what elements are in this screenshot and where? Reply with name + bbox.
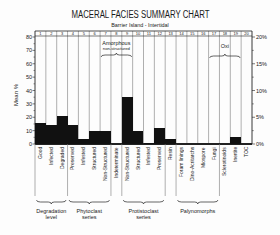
column-number-6: 6 bbox=[89, 31, 100, 36]
y2-tick-label-20: 20% bbox=[256, 34, 267, 40]
bar-11-infested bbox=[144, 143, 155, 144]
column-number-16: 16 bbox=[198, 31, 209, 36]
bar-10-structured bbox=[133, 131, 144, 144]
group-brace-degradation-level bbox=[37, 200, 67, 204]
category-label-structured: Structured bbox=[91, 147, 98, 191]
bar-4-preserved bbox=[68, 125, 79, 144]
group-brace-phytoclast-series bbox=[69, 200, 109, 204]
bar-12-preserved bbox=[154, 128, 165, 144]
column-number-10: 10 bbox=[133, 31, 144, 36]
column-number-20: 20 bbox=[241, 31, 252, 36]
bar-5-infested bbox=[78, 139, 89, 144]
column-number-12: 12 bbox=[154, 31, 165, 36]
category-label-preserved: Preserved bbox=[156, 147, 163, 191]
y2-tick-label-10: 10% bbox=[256, 88, 267, 94]
column-number-5: 5 bbox=[78, 31, 89, 36]
category-label-sclerotinoids: Sclerotinoids bbox=[221, 147, 228, 191]
category-label-degraded: Degraded bbox=[59, 147, 66, 191]
category-label-indeterminate: Indeterminate bbox=[113, 147, 120, 191]
y-tick-label-20: 20 bbox=[18, 114, 32, 120]
column-number-7: 7 bbox=[100, 31, 111, 36]
y-tick-label-80: 80 bbox=[18, 34, 32, 40]
category-label-foram-linings: Foram linings bbox=[178, 147, 185, 191]
y-tick-label-70: 70 bbox=[18, 47, 32, 53]
annotation-oxi: Oxi bbox=[210, 43, 241, 49]
column-number-2: 2 bbox=[46, 31, 57, 36]
y2-tick-label-5: 5% bbox=[256, 114, 264, 120]
group-label-line: Palynomorphs bbox=[173, 208, 223, 214]
category-label-structured: Structured bbox=[135, 147, 142, 191]
annotation-label: Oxi bbox=[210, 43, 241, 49]
category-label-non-structured: Non-Structured bbox=[124, 147, 131, 191]
y-tick-label-50: 50 bbox=[18, 74, 32, 80]
bar-1-good bbox=[35, 123, 46, 144]
category-label-preserved: Preserved bbox=[69, 147, 76, 191]
y-tick-label-0: 0 bbox=[18, 141, 32, 147]
category-label-good: Good bbox=[37, 147, 44, 191]
y-tick-label-60: 60 bbox=[18, 61, 32, 67]
y-tick-label-10: 10 bbox=[18, 128, 32, 134]
column-number-11: 11 bbox=[144, 31, 155, 36]
annotation-sublabel: non-structured bbox=[101, 46, 132, 51]
group-label-phytoclast-series: Phytoclastseries bbox=[64, 208, 114, 220]
column-number-19: 19 bbox=[230, 31, 241, 36]
group-brace-palynomorphs bbox=[178, 200, 218, 204]
column-number-13: 13 bbox=[165, 31, 176, 36]
category-label-fungi: Fungi bbox=[211, 147, 218, 191]
column-number-8: 8 bbox=[111, 31, 122, 36]
column-number-17: 17 bbox=[209, 31, 220, 36]
column-number-18: 18 bbox=[219, 31, 230, 36]
group-label-protistoclast-series: Protistoclastseries bbox=[119, 208, 169, 220]
column-number-4: 4 bbox=[68, 31, 79, 36]
group-label-line: series bbox=[119, 214, 169, 220]
maceral-facies-chart: MACERAL FACIES SUMMARY CHART Barrier Isl… bbox=[0, 0, 280, 235]
category-label-resin: Resin bbox=[167, 147, 174, 191]
annotation-amorphous: Amorphousnon-structured bbox=[101, 40, 132, 51]
y-tick-label-30: 30 bbox=[18, 101, 32, 107]
category-label-infected: Infected bbox=[48, 147, 55, 191]
column-number-14: 14 bbox=[176, 31, 187, 36]
annotation-brace-oxi bbox=[210, 54, 241, 58]
category-label-infested: Infested bbox=[145, 147, 152, 191]
y-tick-label-40: 40 bbox=[18, 88, 32, 94]
bar-13-resin bbox=[165, 139, 176, 144]
annotation-brace-amorphous bbox=[101, 53, 132, 57]
bar-2-infected bbox=[46, 125, 57, 144]
category-label-dino-acritarchs: Dino-Acritarchs bbox=[189, 147, 196, 191]
bar-19-inertite bbox=[230, 137, 241, 144]
column-number-1: 1 bbox=[35, 31, 46, 36]
bar-9-non-structured bbox=[122, 97, 133, 144]
y2-tick-label-0: 0% bbox=[256, 141, 264, 147]
category-label-miospore: Miospore bbox=[200, 147, 207, 191]
y2-tick-label-15: 15% bbox=[256, 61, 267, 67]
group-brace-protistoclast-series bbox=[123, 200, 163, 204]
column-number-3: 3 bbox=[57, 31, 68, 36]
bar-7-non-structured bbox=[100, 131, 111, 144]
category-label-non-structured: Non-Structured bbox=[102, 147, 109, 191]
group-label-palynomorphs: Palynomorphs bbox=[173, 208, 223, 214]
category-label-inertite: Inertite bbox=[232, 147, 239, 191]
group-label-line: series bbox=[64, 214, 114, 220]
category-label-infested: Infested bbox=[80, 147, 87, 191]
column-number-15: 15 bbox=[187, 31, 198, 36]
column-number-9: 9 bbox=[122, 31, 133, 36]
bar-6-structured bbox=[89, 131, 100, 144]
category-label-toc: TOC bbox=[243, 147, 250, 191]
bar-3-degraded bbox=[57, 116, 68, 144]
